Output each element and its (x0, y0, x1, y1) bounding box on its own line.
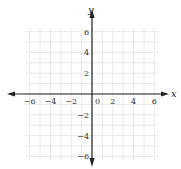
x-tick-label: 0 (95, 97, 100, 106)
y-axis-arrow-down-icon (90, 158, 95, 167)
x-tick-label: −2 (65, 97, 77, 106)
x-axis-arrow-left-icon (7, 92, 15, 97)
x-tick-label: −4 (45, 97, 57, 106)
x-axis-label: x (171, 88, 177, 99)
y-tick-label: 2 (84, 69, 89, 78)
coordinate-plane: −6−4−20246−6−4−2246 x y (0, 0, 181, 169)
x-tick-label: 6 (152, 97, 157, 106)
x-tick-label: 4 (131, 97, 136, 106)
y-axis-label: y (87, 4, 94, 15)
y-tick-label: −4 (77, 132, 89, 141)
y-tick-label: 4 (84, 48, 89, 57)
y-tick-label: 6 (84, 28, 89, 37)
x-axis-arrow-right-icon (161, 92, 169, 97)
y-tick-label: −6 (77, 152, 89, 161)
x-tick-label: −6 (24, 97, 36, 106)
x-tick-label: 2 (110, 97, 115, 106)
y-tick-label: −2 (77, 111, 89, 120)
